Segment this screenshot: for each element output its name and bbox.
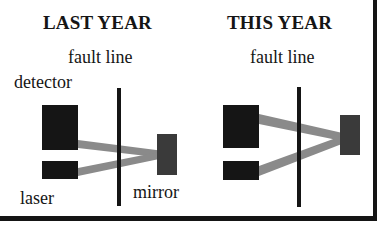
last-year-apparatus: [42, 88, 177, 206]
fault-line: [297, 87, 301, 207]
laser-box: [42, 161, 78, 179]
beam-laser-to-mirror: [259, 134, 347, 176]
detector-box: [223, 105, 259, 148]
beam-detector-to-mirror: [259, 114, 347, 142]
fault-line: [117, 88, 121, 206]
detector-box: [42, 105, 78, 150]
laser-box: [223, 161, 259, 180]
diagram-graphics: [0, 0, 384, 226]
mirror-box: [157, 134, 177, 175]
this-year-apparatus: [223, 87, 360, 207]
mirror-box: [340, 115, 360, 155]
